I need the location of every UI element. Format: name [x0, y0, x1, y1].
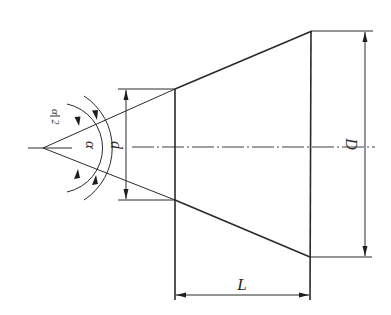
angle-label: α — [83, 141, 99, 150]
frustum-bottom-edge — [175, 200, 310, 257]
angle-arrow-top — [92, 110, 98, 120]
half-angle-arrow-top — [75, 117, 81, 127]
large-diameter-label: D — [343, 137, 360, 150]
half-angle-label: α 2 — [50, 109, 62, 124]
D-arrow-top — [363, 32, 368, 42]
L-arrow-left — [176, 293, 186, 298]
half-angle-numerator: α — [50, 109, 62, 115]
d-arrow-bottom — [124, 189, 129, 199]
L-arrow-right — [299, 293, 309, 298]
apex-ray-lower — [43, 148, 175, 200]
length-label: L — [236, 275, 246, 294]
small-diameter-label: d — [108, 141, 125, 150]
half-angle-denominator: 2 — [50, 120, 61, 125]
D-arrow-bottom — [363, 246, 368, 256]
cone-drawing: α 2 α d D L — [0, 0, 391, 315]
d-arrow-top — [124, 90, 129, 100]
frustum-large-end — [310, 31, 311, 300]
half-angle-arrow-bottom — [74, 169, 80, 179]
frustum-top-edge — [175, 31, 312, 89]
apex-ray-upper — [43, 89, 175, 148]
